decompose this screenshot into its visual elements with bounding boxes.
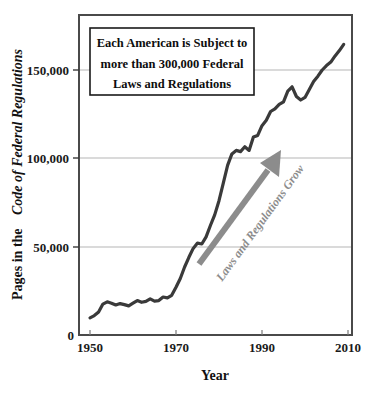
xtick-label-1990: 1990 [249, 340, 275, 355]
x-axis-title: Year [201, 368, 229, 383]
ytick-label-50000: 50,000 [33, 240, 69, 255]
callout-line-3: Laws and Regulations [113, 77, 231, 91]
callout-line-2: more than 300,000 Federal [101, 57, 244, 71]
callout-box: Each American is Subject to more than 30… [90, 28, 254, 95]
xtick-label-2010: 2010 [335, 340, 361, 355]
y-axis-title: Pages in the Code of Federal Regulations [10, 48, 25, 300]
ytick-label-100000: 100,000 [27, 151, 69, 166]
ytick-label-150000: 150,000 [27, 63, 69, 78]
xtick-label-1970: 1970 [163, 340, 189, 355]
y-axis-title-plain: Pages in the [10, 228, 25, 300]
regulations-chart: 150,000 100,000 50,000 0 1950 1970 1990 … [0, 0, 371, 397]
callout-line-1: Each American is Subject to [97, 36, 248, 50]
ytick-label-0: 0 [68, 328, 75, 343]
xtick-label-1950: 1950 [77, 340, 103, 355]
y-axis-title-italic: Code of Federal Regulations [10, 48, 25, 215]
